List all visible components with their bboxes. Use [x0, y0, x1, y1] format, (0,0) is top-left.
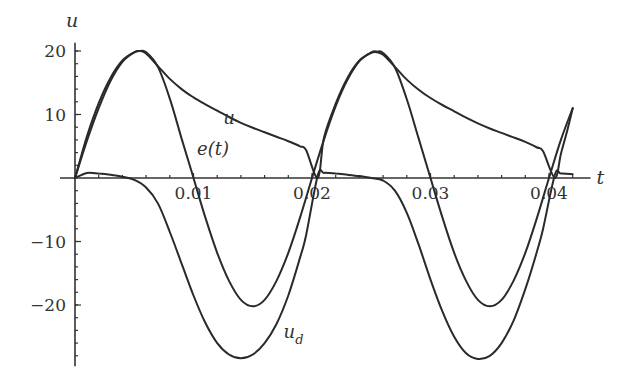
x-axis-label: t: [597, 166, 605, 188]
y-tick-label: 20: [44, 41, 66, 61]
y-tick-label: −20: [30, 295, 66, 315]
curve-label-u: u: [223, 107, 235, 128]
curves: [75, 51, 573, 359]
curve-label-text: u: [223, 107, 235, 128]
annotations: ue(t)ud: [197, 107, 303, 347]
y-tick-label: −10: [30, 232, 66, 252]
axes: 0.010.020.030.042010−10−20 t u: [30, 9, 604, 366]
curve-label-text: u: [284, 321, 296, 342]
y-tick-label: 10: [44, 105, 66, 125]
minor-ticks: [75, 51, 573, 356]
curve-label-u-d: ud: [284, 321, 304, 347]
series-u-line: [75, 51, 573, 178]
curve-label-text: e(t): [197, 138, 229, 159]
x-tick-label: 0.03: [412, 183, 450, 203]
chart: 0.010.020.030.042010−10−20 t u ue(t)ud: [0, 0, 625, 387]
curve-label-e-t: e(t): [197, 138, 229, 159]
y-axis-label: u: [66, 9, 78, 31]
x-tick-label: 0.01: [175, 183, 213, 203]
curve-label-subscript: d: [295, 332, 303, 347]
